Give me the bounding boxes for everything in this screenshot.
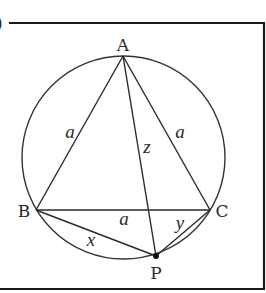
point-label-B: B — [18, 201, 31, 221]
label-BC-a: a — [119, 208, 129, 229]
point-label-C: C — [215, 201, 228, 221]
point-label-P: P — [150, 263, 161, 283]
panel-label-fragment: ) — [0, 13, 3, 33]
point-label-A: A — [116, 35, 130, 55]
point-P-dot — [153, 253, 159, 259]
label-CP-y: y — [174, 212, 185, 233]
segment-BP — [36, 210, 156, 256]
label-AP-z: z — [142, 136, 151, 157]
label-AB-a: a — [65, 121, 75, 142]
segment-AB — [36, 56, 123, 210]
label-AC-a: a — [175, 121, 185, 142]
inscribed-triangle-diagram: ) A B C P a a z a x y — [0, 0, 266, 293]
label-BP-x: x — [86, 229, 96, 250]
